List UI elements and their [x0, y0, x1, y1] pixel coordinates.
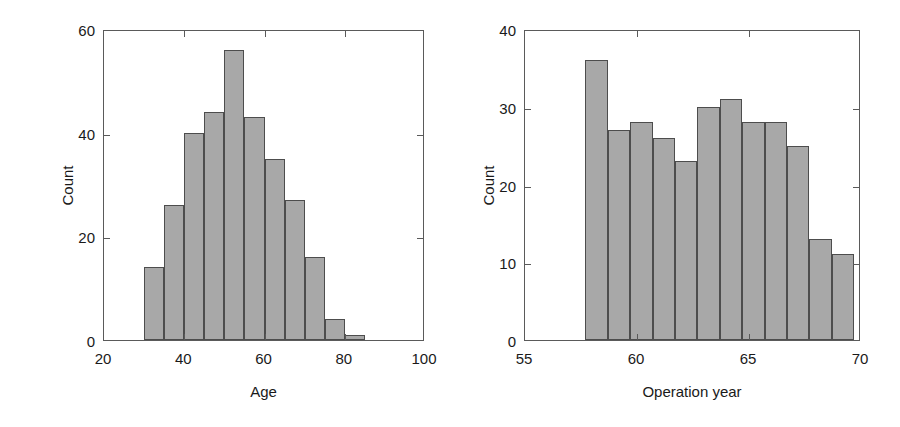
histogram-bar — [345, 335, 365, 340]
histogram-bar — [742, 122, 764, 340]
y-axis-tick-label: 30 — [478, 101, 516, 116]
y-axis-tick — [853, 264, 859, 265]
y-axis-tick — [417, 135, 423, 136]
y-axis-tick — [853, 109, 859, 110]
histogram-bar — [765, 122, 787, 340]
y-axis-tick-label: 60 — [57, 23, 95, 38]
y-axis-tick — [525, 264, 531, 265]
y-axis-title-age: Count — [59, 135, 76, 235]
x-axis-tick-label: 60 — [234, 351, 294, 366]
y-axis-tick — [853, 187, 859, 188]
histogram-bar — [285, 200, 305, 340]
x-axis-title-age: Age — [103, 383, 424, 400]
y-axis-tick — [525, 109, 531, 110]
x-axis-tick — [265, 334, 266, 340]
x-axis-tick-label: 60 — [606, 351, 666, 366]
plot-area-age — [103, 30, 424, 341]
x-axis-tick-label: 80 — [314, 351, 374, 366]
x-axis-tick-label: 70 — [830, 351, 890, 366]
x-axis-tick-label: 40 — [153, 351, 213, 366]
x-axis-tick-label: 100 — [394, 351, 454, 366]
histogram-bar — [630, 122, 652, 340]
x-axis-tick — [265, 31, 266, 37]
x-axis-tick-label: 20 — [73, 351, 133, 366]
x-axis-tick — [637, 31, 638, 37]
histogram-bar — [164, 205, 184, 340]
histogram-bar — [787, 146, 809, 340]
histogram-bar — [244, 117, 264, 340]
x-axis-tick — [637, 334, 638, 340]
bar-series-age — [104, 31, 423, 340]
histogram-bar — [720, 99, 742, 340]
y-axis-tick — [104, 135, 110, 136]
x-axis-tick — [749, 334, 750, 340]
plot-area-operation-year — [524, 30, 860, 341]
panel-operation-year-histogram: 010203040 55606570 Operation year Count — [450, 0, 900, 427]
histogram-bar — [265, 159, 285, 340]
x-axis-tick — [345, 31, 346, 37]
histogram-bar — [144, 267, 164, 340]
x-axis-tick — [184, 31, 185, 37]
histogram-bar — [809, 239, 831, 340]
histogram-bar — [585, 60, 607, 340]
x-axis-tick-label: 55 — [494, 351, 554, 366]
y-axis-tick-label: 0 — [57, 334, 95, 349]
y-axis-title-operation-year: Count — [480, 135, 497, 235]
histogram-bar — [305, 257, 325, 340]
histogram-bar — [325, 319, 345, 340]
y-axis-tick-label: 10 — [478, 256, 516, 271]
x-axis-tick — [345, 334, 346, 340]
figure-canvas: 0204060 20406080100 Age Count 010203040 … — [0, 0, 900, 427]
histogram-bar — [204, 112, 224, 340]
histogram-bar — [697, 107, 719, 340]
y-axis-tick-label: 40 — [478, 23, 516, 38]
histogram-bar — [608, 130, 630, 340]
y-axis-tick — [417, 238, 423, 239]
histogram-bar — [224, 50, 244, 340]
histogram-bar — [184, 133, 204, 340]
y-axis-tick — [104, 238, 110, 239]
bar-series-operation-year — [525, 31, 859, 340]
panel-age-histogram: 0204060 20406080100 Age Count — [0, 0, 450, 427]
y-axis-tick — [525, 187, 531, 188]
histogram-bar — [832, 254, 854, 340]
histogram-bar — [675, 161, 697, 340]
x-axis-title-operation-year: Operation year — [524, 383, 860, 400]
x-axis-tick — [184, 334, 185, 340]
x-axis-tick — [749, 31, 750, 37]
histogram-bar — [653, 138, 675, 340]
x-axis-tick-label: 65 — [718, 351, 778, 366]
y-axis-tick-label: 0 — [478, 334, 516, 349]
